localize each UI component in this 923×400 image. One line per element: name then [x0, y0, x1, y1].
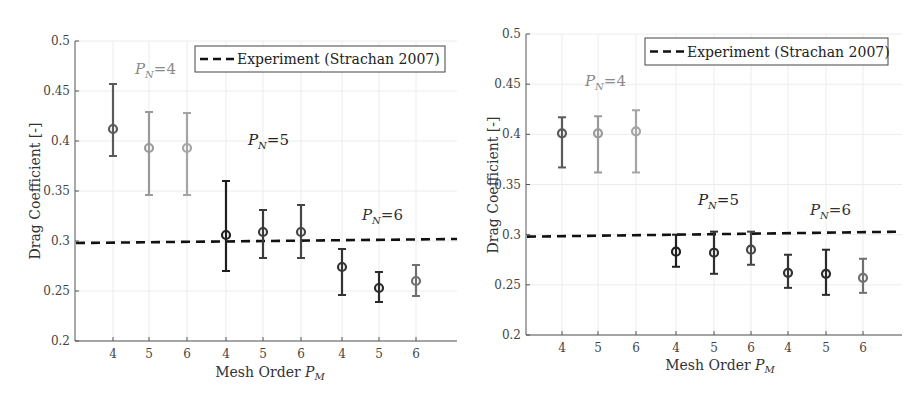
x-tick-label: 4	[558, 341, 566, 355]
error-bar-point	[822, 250, 830, 295]
grid	[526, 34, 902, 335]
y-tick-label: 0.45	[494, 77, 521, 91]
y-tick-label: 0.3	[502, 228, 521, 242]
error-bar-point	[784, 255, 792, 288]
x-tick-label: 6	[632, 341, 640, 355]
y-axis-title: Drag Coefficient [-]	[485, 117, 501, 254]
drag-coefficient-chart-right: 0.20.250.30.350.40.450.5456456456Drag Co…	[0, 0, 923, 400]
annotation-pn-5: PN=5	[697, 191, 739, 211]
chart-right-panel: 0.20.250.30.350.40.450.5456456456Drag Co…	[0, 0, 923, 400]
legend-label: Experiment (Strachan 2007)	[687, 44, 890, 60]
annotation-pn-4: PN=4	[584, 72, 626, 92]
series-pn-5	[672, 232, 755, 274]
error-bar-point	[632, 110, 640, 172]
error-bar-point	[594, 116, 602, 172]
x-tick-label: 5	[822, 341, 830, 355]
x-tick-label: 5	[710, 341, 718, 355]
series-pn-4	[558, 110, 640, 172]
x-tick-label: 4	[784, 341, 792, 355]
y-tick-label: 0.25	[494, 278, 521, 292]
error-bar-point	[672, 235, 680, 267]
error-bar-point	[710, 232, 718, 274]
x-tick-label: 6	[859, 341, 867, 355]
error-bar-point	[859, 259, 867, 293]
legend: Experiment (Strachan 2007)	[645, 38, 890, 65]
y-tick-label: 0.2	[502, 328, 521, 342]
error-bar-point	[747, 232, 755, 265]
x-tick-label: 4	[672, 341, 680, 355]
annotation-pn-6: PN=6	[809, 201, 851, 221]
x-axis-title: Mesh Order PM	[665, 357, 775, 375]
y-tick-label: 0.5	[502, 27, 521, 41]
x-tick-label: 5	[594, 341, 602, 355]
x-tick-label: 6	[747, 341, 755, 355]
series-pn-6	[784, 250, 867, 295]
y-tick-label: 0.4	[502, 127, 521, 141]
error-bar-point	[558, 117, 566, 167]
